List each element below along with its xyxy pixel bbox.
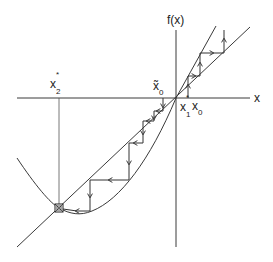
f-curve [17, 26, 216, 214]
y-axis-label: f(x) [167, 14, 184, 26]
x0-label: x0 [192, 100, 202, 115]
stable-fixed-point-marker [55, 204, 63, 212]
x1-star-label: x*1 [180, 101, 190, 116]
identity-line [17, 27, 250, 247]
x-axis-label: x [254, 92, 260, 104]
cobweb-diagram: f(x) x x*2 x*1 x0 x̃0 [0, 0, 273, 262]
x0-tilde-label: x̃0 [153, 80, 163, 95]
right-cobweb [188, 30, 224, 98]
diagram-svg [0, 0, 273, 262]
x2-star-label: x*2 [50, 78, 60, 93]
